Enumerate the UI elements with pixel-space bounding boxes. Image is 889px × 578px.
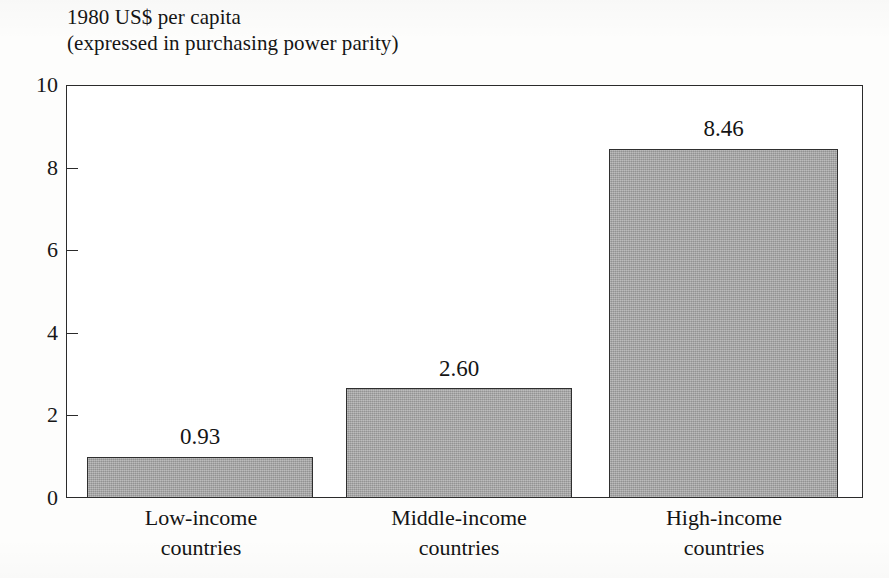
bar-value-high-income: 8.46: [609, 117, 838, 140]
bar-value-low-income: 0.93: [87, 425, 313, 448]
x-label-high-income-line-1: High-income: [666, 505, 782, 530]
y-tick-label-10: 10: [12, 74, 58, 96]
chart-canvas: 1980 US$ per capita (expressed in purcha…: [0, 0, 889, 578]
bar-value-middle-income: 2.60: [346, 357, 572, 380]
y-tick-label-6: 6: [12, 239, 58, 261]
bar-middle-income[interactable]: [346, 388, 572, 498]
x-label-low-income-line-2: countries: [66, 533, 336, 563]
x-axis-category-labels: Low-income countries Middle-income count…: [66, 503, 863, 578]
chart-title-line-1: 1980 US$ per capita: [67, 4, 399, 30]
x-label-low-income: Low-income countries: [66, 503, 336, 563]
x-label-middle-income-line-2: countries: [324, 533, 594, 563]
y-tick-label-4: 4: [12, 322, 58, 344]
y-tick-label-8: 8: [12, 157, 58, 179]
bar-low-income[interactable]: [87, 457, 313, 498]
x-label-middle-income-line-1: Middle-income: [391, 505, 527, 530]
bars-layer: 0.93 2.60 8.46: [66, 85, 863, 498]
x-label-middle-income: Middle-income countries: [324, 503, 594, 563]
chart-title-line-2: (expressed in purchasing power parity): [67, 30, 399, 56]
x-label-low-income-line-1: Low-income: [145, 505, 257, 530]
y-axis-tick-labels: 0 2 4 6 8 10: [0, 85, 58, 498]
y-tick-label-2: 2: [12, 404, 58, 426]
x-label-high-income: High-income countries: [589, 503, 859, 563]
bar-high-income[interactable]: [609, 149, 838, 498]
chart-title: 1980 US$ per capita (expressed in purcha…: [67, 4, 399, 56]
x-label-high-income-line-2: countries: [589, 533, 859, 563]
y-tick-label-0: 0: [12, 487, 58, 509]
